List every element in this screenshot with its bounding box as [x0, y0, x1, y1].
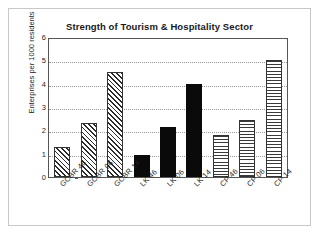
y-tick-label: 6	[30, 34, 46, 42]
y-tick-label: 0	[30, 174, 46, 182]
bar-slot	[102, 39, 128, 177]
y-tick-label: 5	[30, 58, 46, 66]
y-tick-label: 2	[30, 128, 46, 136]
bar-series	[49, 39, 287, 177]
bar-slot	[234, 39, 260, 177]
chart-title: Strength of Tourism & Hospitality Sector	[0, 21, 319, 32]
bar-slot	[208, 39, 234, 177]
y-tick-label: 1	[30, 151, 46, 159]
bar	[266, 60, 282, 177]
bar-slot	[155, 39, 181, 177]
bar-slot	[261, 39, 287, 177]
chart-figure: Strength of Tourism & Hospitality Sector…	[0, 0, 319, 234]
x-axis-tick-labels: GCBR 46GCBR 06GCBR 14LK 46LK 06LK 14CP 4…	[48, 178, 288, 226]
bar	[186, 84, 202, 177]
bar	[160, 127, 176, 177]
y-tick-label: 4	[30, 81, 46, 89]
bar	[239, 120, 255, 177]
plot-area	[48, 38, 288, 178]
bar-slot	[75, 39, 101, 177]
y-axis-tick-labels: 0123456	[30, 38, 46, 178]
bar-slot	[181, 39, 207, 177]
bar-slot	[49, 39, 75, 177]
y-tick-label: 3	[30, 104, 46, 112]
bar	[213, 135, 229, 177]
bar-slot	[128, 39, 154, 177]
